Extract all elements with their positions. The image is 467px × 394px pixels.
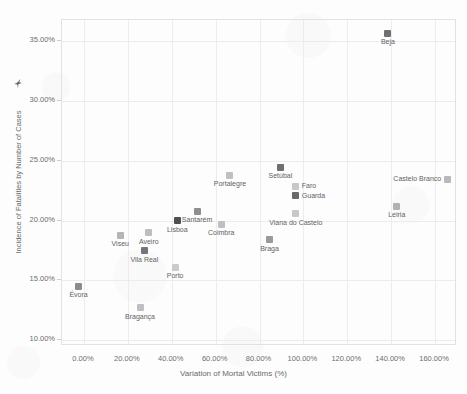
data-point-label: Castelo Branco bbox=[341, 175, 441, 182]
data-point[interactable] bbox=[218, 221, 225, 228]
data-point-label: Santarém bbox=[147, 216, 247, 223]
data-point-label: Setúbal bbox=[230, 172, 330, 179]
y-axis-title: Incidence of Fatalities by Number of Cas… bbox=[14, 111, 23, 254]
data-point-label: Beja bbox=[338, 38, 438, 45]
data-point-label: Évora bbox=[29, 291, 129, 298]
data-point[interactable] bbox=[137, 304, 144, 311]
x-axis-tick-label: 160.00% bbox=[404, 354, 464, 363]
data-point[interactable] bbox=[174, 217, 181, 224]
y-axis-tick-mark bbox=[57, 220, 61, 221]
data-point-label: Portalegre bbox=[180, 180, 280, 187]
data-point[interactable] bbox=[75, 283, 82, 290]
gridline-horizontal bbox=[62, 101, 455, 102]
gridline-horizontal bbox=[62, 340, 455, 341]
gridline-vertical bbox=[391, 20, 392, 344]
y-axis-tick-mark bbox=[57, 40, 61, 41]
gridline-horizontal bbox=[62, 161, 455, 162]
data-point[interactable] bbox=[194, 208, 201, 215]
gridline-horizontal bbox=[62, 280, 455, 281]
data-point[interactable] bbox=[393, 203, 400, 210]
data-point-label: Viseu bbox=[70, 240, 170, 247]
x-axis-title: Variation of Mortal Victims (%) bbox=[0, 369, 467, 378]
data-point[interactable] bbox=[172, 264, 179, 271]
data-point-label: Viana do Castelo bbox=[246, 219, 346, 226]
data-point[interactable] bbox=[444, 176, 451, 183]
data-point[interactable] bbox=[117, 232, 124, 239]
data-point[interactable] bbox=[384, 30, 391, 37]
gridline-vertical bbox=[172, 20, 173, 344]
gridline-vertical bbox=[435, 20, 436, 344]
data-point[interactable] bbox=[145, 229, 152, 236]
y-axis-tick-mark bbox=[57, 100, 61, 101]
y-axis-tick-mark bbox=[57, 279, 61, 280]
y-axis-tick-label: 35.00% bbox=[0, 35, 55, 44]
data-point[interactable] bbox=[292, 183, 299, 190]
data-point-label: Braga bbox=[219, 245, 319, 252]
y-axis-tick-label: 10.00% bbox=[0, 334, 55, 343]
y-axis-tick-mark bbox=[57, 339, 61, 340]
data-point-label: Guarda bbox=[302, 192, 325, 199]
gridline-vertical bbox=[347, 20, 348, 344]
y-axis-tick-label: 30.00% bbox=[0, 95, 55, 104]
data-point-label: Porto bbox=[125, 272, 225, 279]
data-point-label: Vila Real bbox=[94, 256, 194, 263]
data-point[interactable] bbox=[277, 164, 284, 171]
scatter-chart: Incidence of Fatalities by Number of Cas… bbox=[0, 0, 467, 394]
data-point[interactable] bbox=[141, 247, 148, 254]
y-axis-tick-mark bbox=[57, 160, 61, 161]
y-axis-tick-label: 15.00% bbox=[0, 274, 55, 283]
data-point-label: Leiria bbox=[347, 211, 447, 218]
data-point[interactable] bbox=[266, 236, 273, 243]
y-axis-tick-label: 20.00% bbox=[0, 215, 55, 224]
data-point[interactable] bbox=[292, 192, 299, 199]
data-point[interactable] bbox=[292, 210, 299, 217]
data-point-label: Faro bbox=[302, 182, 316, 189]
data-point-label: Coimbra bbox=[171, 229, 271, 236]
pin-icon bbox=[13, 78, 25, 90]
data-point-label: Bragança bbox=[90, 313, 190, 320]
y-axis-tick-label: 25.00% bbox=[0, 155, 55, 164]
